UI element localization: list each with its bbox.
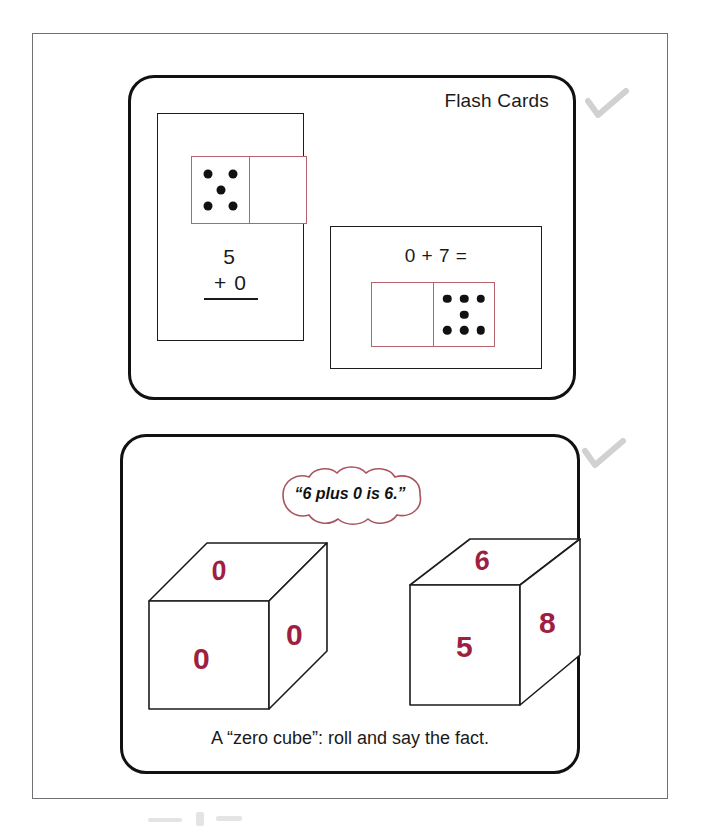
check-icon [580, 438, 626, 472]
domino-half-right [433, 283, 494, 346]
cube-digit-front: 0 [193, 642, 210, 675]
panel-title-flash-cards: Flash Cards [444, 90, 549, 112]
scan-artifact [216, 816, 242, 821]
domino-pip [443, 295, 452, 304]
domino-half-right [249, 157, 306, 223]
cube-digit-side: 8 [539, 606, 556, 639]
domino-pip [443, 326, 452, 335]
domino-pip [229, 170, 238, 179]
domino-pip [460, 310, 469, 319]
domino-five-zero [191, 156, 307, 224]
cube-digit-side: 0 [286, 618, 303, 651]
domino-pip [460, 326, 469, 335]
flash-card-vertical: 5 + 0 [157, 113, 304, 341]
flash-card-horizontal: 0 + 7 = [330, 226, 542, 369]
horizontal-equation: 0 + 7 = [331, 245, 541, 267]
domino-half-left [192, 157, 249, 223]
cube-digit-front: 5 [456, 630, 473, 663]
domino-pip [203, 170, 212, 179]
domino-pip [460, 295, 469, 304]
domino-zero-seven [371, 282, 495, 347]
speech-cloud: “6 plus 0 is 6.” [245, 464, 455, 527]
domino-pip [203, 201, 212, 210]
domino-pip [229, 201, 238, 210]
panel-flash-cards: Flash Cards 5 + 0 0 + 7 = [128, 75, 576, 400]
scan-artifact [148, 818, 182, 822]
vertical-equation: 5 + 0 [158, 244, 303, 300]
cube-right-number: 6 5 8 [408, 537, 608, 713]
equation-addend-bottom: + 0 [158, 270, 303, 296]
domino-pip [477, 295, 486, 304]
scan-artifact [196, 812, 204, 826]
panel-caption-zero-cube: A “zero cube”: roll and say the fact. [123, 728, 577, 749]
panel-zero-cube: “6 plus 0 is 6.” 0 0 0 6 5 8 A “zero [120, 434, 580, 774]
equation-rule [204, 298, 258, 300]
check-icon [583, 88, 629, 122]
domino-pip [216, 186, 225, 195]
equation-addend-top: 5 [158, 244, 303, 270]
speech-cloud-text: “6 plus 0 is 6.” [245, 485, 455, 503]
cube-left-zero: 0 0 0 [147, 541, 347, 713]
domino-half-left [372, 283, 433, 346]
domino-pip [477, 326, 486, 335]
